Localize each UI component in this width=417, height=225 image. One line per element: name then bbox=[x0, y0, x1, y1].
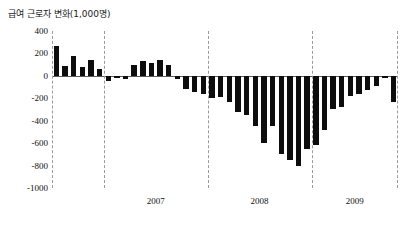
y-tick-label: -1000 bbox=[27, 183, 48, 193]
x-tick-label: 2009 bbox=[346, 196, 364, 206]
bar bbox=[313, 76, 318, 146]
bar bbox=[244, 76, 249, 115]
bar bbox=[80, 67, 85, 75]
bar bbox=[175, 76, 180, 79]
y-tick-label: 400 bbox=[35, 26, 49, 36]
y-tick-label: -400 bbox=[32, 116, 49, 126]
y-tick-label: -800 bbox=[32, 161, 49, 171]
y-tick-label: 200 bbox=[35, 48, 49, 58]
bar bbox=[296, 76, 301, 166]
plot-area bbox=[52, 31, 398, 188]
bar bbox=[279, 76, 284, 155]
year-separator-line bbox=[208, 31, 209, 188]
year-separator-line bbox=[52, 31, 53, 188]
bar bbox=[270, 76, 275, 126]
x-axis-labels: 200720082009 bbox=[52, 196, 398, 214]
bar bbox=[114, 76, 119, 78]
bar bbox=[157, 60, 162, 76]
bar bbox=[183, 76, 188, 89]
bar bbox=[227, 76, 232, 102]
bar bbox=[62, 66, 67, 76]
bar bbox=[97, 69, 102, 76]
bar bbox=[339, 76, 344, 107]
bar bbox=[106, 76, 111, 81]
bar bbox=[131, 65, 136, 76]
bar bbox=[201, 76, 206, 95]
bar bbox=[140, 61, 145, 76]
bar bbox=[382, 76, 387, 78]
bar bbox=[88, 60, 93, 76]
y-tick-label: -600 bbox=[32, 138, 49, 148]
x-tick-label: 2007 bbox=[147, 196, 165, 206]
bar bbox=[391, 76, 396, 102]
bar bbox=[348, 76, 353, 96]
bar bbox=[330, 76, 335, 110]
bar bbox=[365, 76, 370, 91]
x-tick-label: 2008 bbox=[251, 196, 269, 206]
bar bbox=[54, 46, 59, 76]
bar bbox=[209, 76, 214, 98]
bar bbox=[287, 76, 292, 160]
bar bbox=[253, 76, 258, 126]
y-axis-labels: 4002000-200-400-600-800-1000 bbox=[0, 31, 48, 188]
year-separator-line bbox=[312, 31, 313, 188]
year-separator-line bbox=[397, 31, 398, 188]
bar bbox=[71, 56, 76, 76]
y-tick-label: -200 bbox=[32, 93, 49, 103]
bar bbox=[304, 76, 309, 149]
bar bbox=[123, 76, 128, 79]
bar bbox=[322, 76, 327, 130]
y-tick-label: 0 bbox=[44, 71, 49, 81]
bar bbox=[149, 63, 154, 76]
chart-root: 급여 근로자 변화(1,000명) 4002000-200-400-600-80… bbox=[0, 0, 417, 225]
bar bbox=[192, 76, 197, 92]
bar bbox=[235, 76, 240, 112]
bar bbox=[218, 76, 223, 97]
chart-title: 급여 근로자 변화(1,000명) bbox=[8, 9, 111, 20]
bar bbox=[166, 65, 171, 76]
year-separator-line bbox=[104, 31, 105, 188]
bar bbox=[374, 76, 379, 86]
bar bbox=[261, 76, 266, 143]
bar bbox=[356, 76, 361, 94]
